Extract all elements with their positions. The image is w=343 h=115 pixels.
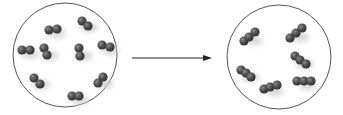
product-container bbox=[227, 5, 331, 109]
atom bbox=[306, 76, 315, 85]
diagram-canvas bbox=[0, 0, 343, 115]
atom bbox=[52, 24, 61, 33]
reaction-arrow bbox=[132, 55, 212, 61]
arrow-head-icon bbox=[203, 55, 212, 61]
atom bbox=[17, 45, 26, 54]
atom bbox=[25, 45, 34, 54]
reaction-diagram bbox=[0, 0, 343, 115]
atom bbox=[250, 27, 259, 36]
atom bbox=[297, 23, 306, 32]
atom bbox=[42, 50, 51, 59]
atom bbox=[105, 42, 114, 51]
atom bbox=[74, 91, 83, 100]
atom bbox=[44, 25, 53, 34]
atom bbox=[74, 43, 83, 52]
atom bbox=[246, 72, 255, 81]
atom bbox=[301, 59, 310, 68]
atom bbox=[272, 80, 281, 89]
atom bbox=[98, 72, 107, 81]
atom bbox=[75, 51, 84, 60]
atom bbox=[97, 40, 106, 49]
atom bbox=[83, 21, 92, 30]
atom bbox=[35, 79, 44, 88]
reactant-container bbox=[13, 3, 119, 107]
